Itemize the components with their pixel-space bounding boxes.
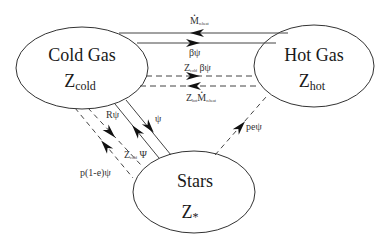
metal-symbol: Z: [182, 202, 193, 222]
stars-title: Stars: [177, 172, 213, 190]
psi-label: ψ: [155, 114, 161, 124]
reheat-label: Mreheat: [190, 16, 209, 26]
r-psi-label: Rψ: [106, 110, 119, 120]
label-main: Ψ: [140, 149, 147, 160]
m-dot-symbol: M: [190, 16, 199, 26]
metal-subscript: hot: [310, 79, 325, 93]
z-cold-beta-psi-label: Zcold βψ: [184, 63, 211, 73]
m-dot-symbol: M: [197, 93, 206, 103]
label-subscript: reheat: [199, 21, 209, 26]
label-prefix-subscript: cold: [130, 155, 137, 160]
metal-subscript: cold: [75, 79, 96, 93]
label-main: βψ: [200, 62, 211, 73]
z-hot-reheat-label: ZhotMreheat: [186, 93, 216, 103]
cold-gas-title: Cold Gas: [48, 46, 116, 64]
stars-metallicity: Z*: [182, 203, 199, 223]
metal-subscript: *: [193, 210, 199, 224]
metal-symbol: Z: [299, 71, 310, 91]
cold-gas-node: [16, 27, 148, 109]
pe-psi-label: peψ: [246, 122, 262, 132]
hot-gas-title: Hot Gas: [284, 46, 344, 64]
beta-psi-label: βψ: [189, 48, 200, 58]
label-subscript: reheat: [206, 98, 216, 103]
hot-gas-metallicity: Zhot: [299, 72, 325, 92]
cold-gas-metallicity: Zcold: [64, 72, 96, 92]
label-prefix-subscript: cold: [190, 68, 197, 73]
z-cold-psi-label: Zcold Ψ: [124, 150, 147, 160]
metal-symbol: Z: [64, 71, 75, 91]
p-1-e-psi-label: p(1-e)ψ: [80, 168, 111, 178]
hot-gas-node: [254, 25, 374, 107]
